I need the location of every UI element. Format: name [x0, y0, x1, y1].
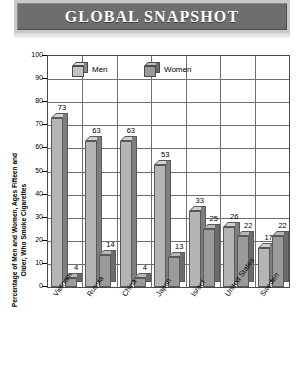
y-tick-label: 60: [21, 143, 43, 150]
bar-japan-men: [154, 160, 166, 287]
y-tick-label: 70: [21, 120, 43, 127]
bar-value-label: 33: [189, 196, 211, 205]
gridline-v: [186, 56, 187, 287]
bar-value-label: 4: [134, 263, 156, 272]
gridline-h: [48, 79, 289, 80]
y-tick-label: 30: [21, 213, 43, 220]
bar-israel-women: [203, 224, 215, 287]
cube-icon-women: [144, 62, 160, 77]
bar-china-men: [120, 136, 132, 287]
bar-value-label: 22: [237, 221, 259, 230]
gridline-v: [82, 56, 83, 287]
gridline-h: [48, 125, 289, 126]
banner-shadow: [14, 33, 290, 38]
legend-label-men: Men: [92, 65, 108, 74]
y-tick-label: 90: [21, 74, 43, 81]
y-axis-title: Percentage of Men and Women, Ages Fiftee…: [10, 130, 32, 330]
banner-inner: GLOBAL SNAPSHOT: [17, 3, 287, 30]
bar-value-label: 4: [65, 263, 87, 272]
gridline-v: [117, 56, 118, 287]
plot-area: 73463146345313332526221722 Men Women: [47, 55, 290, 288]
legend-label-women: Women: [164, 65, 191, 74]
bar-value-label: 22: [272, 221, 294, 230]
y-tick-label: 10: [21, 259, 43, 266]
bar-russia-men: [85, 136, 97, 287]
legend-item-women: Women: [144, 62, 191, 77]
bar-value-label: 73: [51, 103, 73, 112]
cube-icon-men: [72, 62, 88, 77]
bar-value-label: 25: [203, 214, 225, 223]
bar-value-label: 14: [99, 240, 121, 249]
bar-value-label: 63: [120, 126, 142, 135]
y-tick-label: 80: [21, 97, 43, 104]
gridline-v: [255, 56, 256, 287]
y-tick-label: 20: [21, 236, 43, 243]
y-tick-label: 40: [21, 190, 43, 197]
gridline-v: [220, 56, 221, 287]
bar-value-label: 53: [154, 150, 176, 159]
legend-item-men: Men: [72, 62, 108, 77]
global-snapshot-banner: GLOBAL SNAPSHOT: [14, 0, 290, 33]
y-tick-label: 100: [21, 51, 43, 58]
bar-chart: Percentage of Men and Women, Ages Fiftee…: [0, 44, 305, 382]
gridline-h: [48, 102, 289, 103]
page-title: GLOBAL SNAPSHOT: [65, 8, 239, 26]
bar-value-label: 63: [85, 126, 107, 135]
bar-vietnam-men: [51, 113, 63, 287]
bar-israel-men: [189, 206, 201, 287]
bar-value-label: 13: [168, 242, 190, 251]
bar-value-label: 26: [223, 212, 245, 221]
gridline-v: [151, 56, 152, 287]
y-tick-label: 50: [21, 167, 43, 174]
y-tick-label: 0: [21, 282, 43, 289]
